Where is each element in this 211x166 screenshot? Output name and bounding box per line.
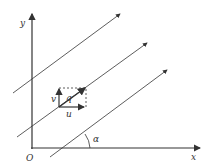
velocity-q-arrow (59, 88, 85, 107)
streamline-top (13, 14, 120, 93)
x-axis-label: x (191, 152, 196, 162)
diagram-svg: y x O q v u α (0, 0, 211, 166)
y-axis-label: y (19, 18, 26, 28)
q-label: q (66, 93, 72, 103)
angle-arc (85, 134, 90, 148)
flow-diagram: y x O q v u α (0, 0, 211, 166)
origin-label: O (26, 153, 34, 163)
alpha-label: α (93, 134, 99, 144)
v-label: v (51, 94, 56, 104)
u-label: u (66, 109, 72, 119)
